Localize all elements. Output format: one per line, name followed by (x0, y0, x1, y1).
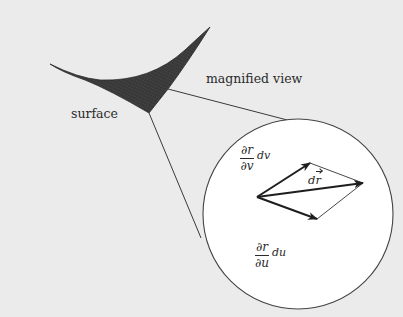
partial-u-fraction: ∂r ∂u (255, 241, 269, 269)
diagram-canvas: surface magnified view ∂r ∂v dv ∂r ∂u du… (0, 0, 403, 317)
dr-r-vector: r (315, 173, 321, 187)
connector-line-lower (149, 113, 201, 238)
dr-d: d (308, 173, 315, 187)
partial-u-differential: du (272, 246, 286, 259)
partial-v-denominator: ∂v (240, 159, 253, 173)
connector-line-upper (168, 89, 295, 122)
partial-u-label: ∂r ∂u du (255, 241, 286, 269)
dr-label: dr (308, 173, 321, 187)
surface-patch (50, 27, 210, 113)
surface-label: surface (71, 108, 118, 121)
partial-v-numerator: ∂r (240, 144, 254, 159)
magnified-view-label: magnified view (206, 73, 302, 86)
partial-v-differential: dv (257, 149, 270, 162)
partial-u-denominator: ∂u (255, 256, 269, 270)
partial-u-numerator: ∂r (255, 241, 269, 256)
partial-v-fraction: ∂r ∂v (240, 144, 254, 172)
partial-v-label: ∂r ∂v dv (240, 144, 270, 172)
magnifier-circle (203, 119, 393, 309)
diagram-svg (0, 0, 403, 317)
